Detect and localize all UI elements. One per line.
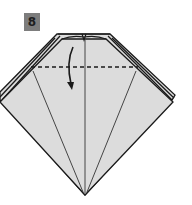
origami-diagram bbox=[0, 0, 192, 205]
front-flap-shape bbox=[0, 39, 173, 195]
